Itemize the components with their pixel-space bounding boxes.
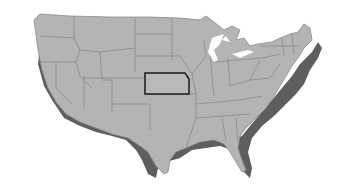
us-map-graphic: [0, 0, 348, 186]
us-map: United States: [0, 0, 348, 186]
highlighted-state-kansas[interactable]: [145, 73, 189, 94]
